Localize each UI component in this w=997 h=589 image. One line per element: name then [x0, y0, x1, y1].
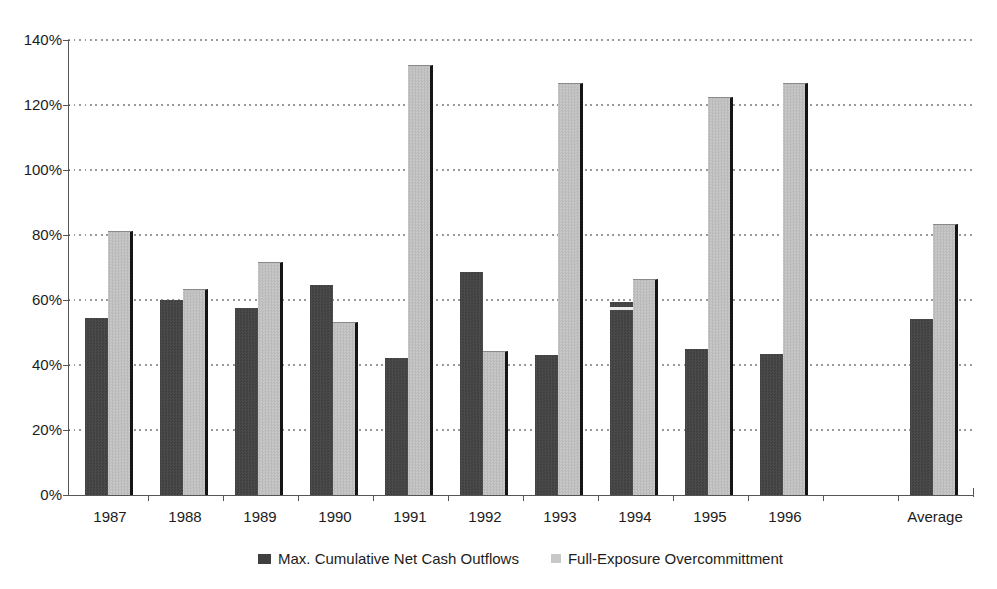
- x-axis-label-1993: 1993: [523, 508, 597, 526]
- y-axis-label-100: 100%: [0, 161, 62, 179]
- x-axis-tick-2: [223, 495, 224, 501]
- gridline-100: [68, 169, 972, 171]
- y-axis-label-0: 0%: [0, 486, 62, 504]
- bar-1993-light: [558, 83, 583, 495]
- bar-1989-light: [258, 262, 283, 495]
- y-axis-label-60: 60%: [0, 291, 62, 309]
- legend-label-overcommittment: Full-Exposure Overcommittment: [568, 550, 783, 567]
- artifact-stripe-1994: [610, 307, 633, 310]
- x-axis-tick-3: [298, 495, 299, 501]
- x-axis-label-1994: 1994: [598, 508, 672, 526]
- x-axis-tick-9: [748, 495, 749, 501]
- bar-1994-light: [633, 279, 658, 495]
- y-axis-label-120: 120%: [0, 96, 62, 114]
- bar-1992-light: [483, 351, 508, 495]
- x-axis-tick-1: [148, 495, 149, 501]
- bar-1991-light: [408, 65, 433, 495]
- x-axis-line: [68, 495, 974, 496]
- bar-chart-figure: Max. Cumulative Net Cash Outflows Full-E…: [0, 0, 997, 589]
- bar-1992-dark: [460, 272, 483, 495]
- x-axis-end-tick: [973, 488, 974, 497]
- bar-1995-light: [708, 97, 733, 495]
- y-axis-label-20: 20%: [0, 421, 62, 439]
- bar-average-light: [933, 224, 958, 495]
- bar-1996-light: [783, 83, 808, 495]
- legend-label-net-cash-outflows: Max. Cumulative Net Cash Outflows: [278, 550, 519, 567]
- gridline-80: [68, 234, 972, 236]
- bar-1990-dark: [310, 285, 333, 495]
- x-axis-label-1988: 1988: [148, 508, 222, 526]
- y-axis-line: [68, 40, 69, 495]
- x-axis-tick-4: [373, 495, 374, 501]
- bar-1988-light: [183, 289, 208, 495]
- legend: Max. Cumulative Net Cash Outflows Full-E…: [0, 550, 997, 567]
- legend-swatch-dark-icon: [258, 554, 271, 564]
- x-axis-label-1989: 1989: [223, 508, 297, 526]
- bar-1988-dark: [160, 300, 183, 495]
- y-axis-label-40: 40%: [0, 356, 62, 374]
- x-axis-label-1987: 1987: [73, 508, 147, 526]
- x-axis-label-1992: 1992: [448, 508, 522, 526]
- bar-1987-dark: [85, 318, 108, 495]
- x-axis-tick-5: [448, 495, 449, 501]
- bar-1993-dark: [535, 355, 558, 495]
- bar-1996-dark: [760, 354, 783, 495]
- bar-1991-dark: [385, 358, 408, 495]
- bar-1987-light: [108, 231, 133, 495]
- bar-1990-light: [333, 322, 358, 495]
- legend-swatch-light-icon: [551, 554, 561, 563]
- y-axis-label-80: 80%: [0, 226, 62, 244]
- x-axis-label-1990: 1990: [298, 508, 372, 526]
- x-axis-label-1991: 1991: [373, 508, 447, 526]
- gridline-120: [68, 104, 972, 106]
- y-axis-label-140: 140%: [0, 31, 62, 49]
- x-axis-tick-6: [523, 495, 524, 501]
- x-axis-tick-10: [823, 495, 824, 501]
- x-axis-tick-8: [673, 495, 674, 501]
- bar-1989-dark: [235, 308, 258, 495]
- bar-1995-dark: [685, 349, 708, 495]
- x-axis-label-1995: 1995: [673, 508, 747, 526]
- x-axis-tick-11: [898, 495, 899, 501]
- gridline-140: [68, 39, 972, 41]
- x-axis-label-average: Average: [898, 508, 972, 526]
- legend-item-net-cash-outflows: Max. Cumulative Net Cash Outflows: [258, 550, 519, 567]
- x-axis-tick-7: [598, 495, 599, 501]
- legend-item-overcommittment: Full-Exposure Overcommittment: [551, 550, 783, 567]
- x-axis-label-1996: 1996: [748, 508, 822, 526]
- bar-average-dark: [910, 319, 933, 495]
- bar-1994-dark: [610, 302, 633, 495]
